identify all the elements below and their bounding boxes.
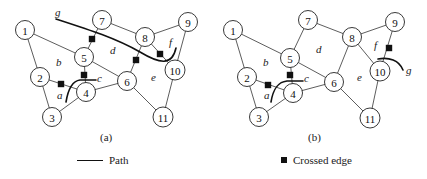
node-8: 8: [136, 28, 155, 47]
svg-text:1: 1: [22, 25, 28, 37]
svg-text:8: 8: [142, 32, 148, 44]
svg-text:11: 11: [158, 112, 169, 124]
svg-text:10: 10: [375, 66, 387, 78]
node-5: 5: [75, 48, 94, 67]
node-11: 11: [153, 107, 173, 127]
face-label-c: c: [304, 72, 309, 84]
face-label-f: f: [169, 36, 174, 48]
node-11: 11: [360, 108, 380, 128]
crossed-edge-marker: [81, 72, 87, 78]
svg-text:3: 3: [256, 112, 262, 124]
caption-b: (b): [308, 131, 321, 143]
face-label-c: c: [97, 72, 102, 84]
svg-text:11: 11: [365, 113, 376, 125]
caption-a: (a): [100, 131, 112, 143]
crossed-edge-marker: [287, 72, 293, 78]
node-7: 7: [93, 11, 112, 30]
graph-panel-b: 1234567891011abcdefg: [209, 0, 424, 135]
crossed-edge-marker: [157, 51, 163, 57]
svg-text:3: 3: [49, 112, 55, 124]
crossed-edge-marker: [58, 81, 64, 87]
svg-text:9: 9: [185, 17, 191, 29]
crossed-edge-marker: [133, 57, 139, 63]
face-label-a: a: [57, 89, 63, 101]
face-label-e: e: [357, 71, 362, 83]
node-6: 6: [118, 72, 137, 91]
node-10: 10: [370, 61, 390, 81]
crossed-edge-marker: [265, 82, 271, 88]
node-3: 3: [250, 108, 269, 127]
legend-path: Path: [77, 154, 129, 166]
crossed-edge-marker: [386, 45, 392, 51]
svg-text:5: 5: [287, 53, 293, 65]
node-9: 9: [179, 13, 198, 32]
node-1: 1: [16, 21, 35, 40]
node-3: 3: [43, 108, 62, 127]
svg-text:10: 10: [170, 65, 182, 77]
face-label-d: d: [316, 43, 322, 55]
svg-text:7: 7: [99, 15, 105, 27]
graph-panel-a: 1234567891011abcdefg: [0, 0, 215, 135]
face-label-b: b: [263, 56, 269, 68]
svg-text:2: 2: [244, 72, 250, 84]
crossed-edge-marker: [89, 36, 95, 42]
svg-text:7: 7: [305, 15, 311, 27]
node-7: 7: [299, 11, 318, 30]
face-label-a: a: [264, 89, 270, 101]
svg-text:2: 2: [37, 72, 43, 84]
face-label-g: g: [406, 64, 412, 76]
face-label-g: g: [55, 6, 61, 18]
node-1: 1: [224, 21, 243, 40]
node-10: 10: [165, 60, 185, 80]
svg-text:4: 4: [290, 88, 296, 100]
crossed-edge-square-icon: [281, 157, 287, 163]
legend-path-label: Path: [109, 154, 129, 166]
svg-text:5: 5: [81, 52, 87, 64]
face-label-f: f: [374, 39, 379, 51]
node-4: 4: [77, 83, 96, 102]
path-line-icon: [77, 160, 103, 161]
node-5: 5: [281, 49, 300, 68]
node-2: 2: [31, 68, 50, 87]
face-label-d: d: [110, 44, 116, 56]
face-label-b: b: [56, 56, 62, 68]
node-9: 9: [386, 13, 405, 32]
legend-crossed-edge: Crossed edge: [281, 154, 352, 166]
legend-crossed-edge-label: Crossed edge: [293, 154, 352, 166]
face-label-e: e: [151, 71, 156, 83]
svg-text:6: 6: [331, 77, 337, 89]
node-4: 4: [284, 84, 303, 103]
svg-text:6: 6: [124, 76, 130, 88]
svg-text:4: 4: [83, 87, 89, 99]
node-2: 2: [238, 68, 257, 87]
svg-text:8: 8: [349, 32, 355, 44]
svg-text:9: 9: [392, 17, 398, 29]
svg-text:1: 1: [230, 25, 236, 37]
node-6: 6: [325, 73, 344, 92]
node-8: 8: [343, 28, 362, 47]
